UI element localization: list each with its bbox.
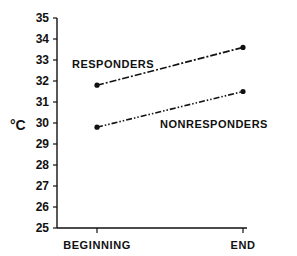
y-tick-label: 29 <box>36 137 50 151</box>
y-tick-label: 27 <box>36 179 50 193</box>
y-tick-label: 25 <box>36 221 50 235</box>
x-label-end: END <box>230 239 255 251</box>
series-label-nonresponders: NONRESPONDERS <box>160 118 268 130</box>
y-tick-label: 26 <box>36 200 50 214</box>
data-point <box>94 83 99 88</box>
y-tick-label: 30 <box>36 116 50 130</box>
y-tick-label: 28 <box>36 158 50 172</box>
y-tick-label: 33 <box>36 53 50 67</box>
series-label-responders: RESPONDERS <box>72 58 154 70</box>
data-point <box>240 45 245 50</box>
chart: 2526272829303132333435 BEGINNING END °C … <box>0 0 297 256</box>
y-tick-label: 34 <box>36 32 50 46</box>
y-axis-ticks: 2526272829303132333435 <box>36 11 57 235</box>
y-tick-label: 35 <box>36 11 50 25</box>
x-label-beginning: BEGINNING <box>63 239 131 251</box>
data-point <box>240 89 245 94</box>
y-axis-label: °C <box>10 117 26 133</box>
data-point <box>94 125 99 130</box>
y-tick-label: 31 <box>36 95 50 109</box>
y-tick-label: 32 <box>36 74 50 88</box>
